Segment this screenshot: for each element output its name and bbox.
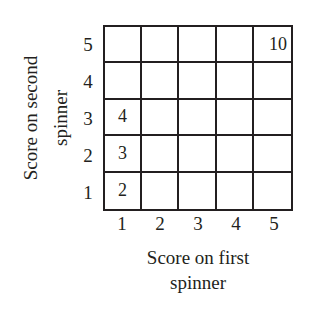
x-tick-5: 5 (264, 214, 284, 233)
x-axis-label-line1: Score on first (147, 248, 249, 267)
x-tick-4: 4 (226, 214, 246, 233)
grid-cell (142, 136, 179, 172)
grid-cell (217, 27, 254, 63)
grid-cell (179, 27, 216, 63)
grid-cell (142, 173, 179, 209)
x-tick-1: 1 (112, 214, 132, 233)
grid-cell (254, 100, 291, 136)
grid-cell: 2 (105, 173, 142, 209)
grid-cell (105, 27, 142, 63)
grid-cell (105, 63, 142, 99)
grid-cell (142, 63, 179, 99)
grid-cell: 3 (105, 136, 142, 172)
y-axis-label-line2: spinner (51, 90, 70, 146)
grid-cell (254, 173, 291, 209)
y-axis-label-line1: Score on second (21, 56, 40, 181)
grid-cell (142, 100, 179, 136)
x-axis-label-line2: spinner (170, 273, 226, 292)
grid-cell (254, 63, 291, 99)
grid-cell (179, 63, 216, 99)
grid-cell (179, 173, 216, 209)
y-tick-1: 1 (80, 183, 96, 202)
grid-cell (217, 63, 254, 99)
y-tick-2: 2 (80, 146, 96, 165)
x-tick-3: 3 (188, 214, 208, 233)
y-tick-4: 4 (80, 72, 96, 91)
y-tick-5: 5 (80, 35, 96, 54)
y-tick-3: 3 (80, 109, 96, 128)
grid-cell (217, 173, 254, 209)
grid-cell (217, 100, 254, 136)
grid-cell (217, 136, 254, 172)
x-tick-2: 2 (150, 214, 170, 233)
grid-cell (254, 136, 291, 172)
grid-cell: 10 (254, 27, 291, 63)
grid-cell (179, 136, 216, 172)
score-grid: 10 4 3 2 (103, 25, 293, 211)
grid-cell (142, 27, 179, 63)
grid-cell (179, 100, 216, 136)
grid-cell: 4 (105, 100, 142, 136)
